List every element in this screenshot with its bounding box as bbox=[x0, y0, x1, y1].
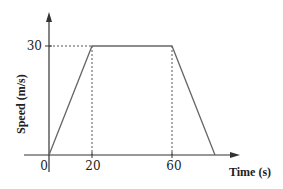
tick-label-20: 20 bbox=[85, 159, 100, 173]
x-axis-arrow-icon bbox=[230, 152, 240, 158]
speed-time-graph: 30 0 20 60 Time (s) Speed (m/s) bbox=[0, 0, 283, 189]
speed-line bbox=[49, 46, 215, 155]
tick-label-0: 0 bbox=[40, 159, 48, 173]
y-axis-label: Speed (m/s) bbox=[14, 74, 28, 134]
tick-label-30: 30 bbox=[27, 39, 42, 53]
x-axis-label: Time (s) bbox=[229, 165, 271, 179]
tick-label-60: 60 bbox=[166, 159, 181, 173]
y-axis-arrow-icon bbox=[46, 12, 52, 22]
